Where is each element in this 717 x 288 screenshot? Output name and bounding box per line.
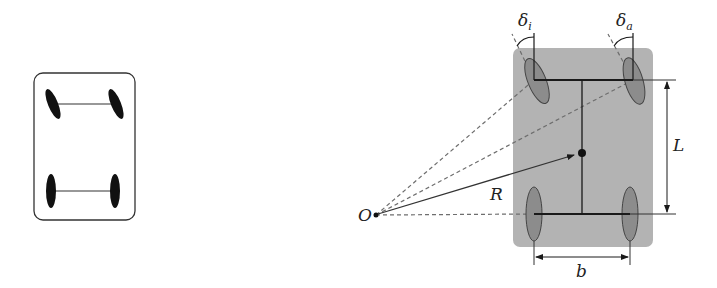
turn-center-label: O bbox=[358, 205, 372, 225]
track-width-label: b bbox=[576, 261, 587, 281]
radius-label: R bbox=[489, 184, 503, 204]
center-of-gravity bbox=[578, 149, 586, 157]
delta-inner-label: δi bbox=[518, 10, 532, 33]
rear-left-wheel bbox=[46, 174, 56, 208]
wheelbase-label: L bbox=[672, 135, 684, 155]
ackermann-diagram: δi δa L b R O bbox=[0, 0, 717, 288]
outer-angle-arc bbox=[614, 37, 633, 46]
inner-angle-arc bbox=[517, 37, 534, 46]
simple-vehicle bbox=[34, 73, 135, 220]
turn-center-point bbox=[374, 213, 379, 218]
delta-outer-label: δa bbox=[616, 10, 633, 33]
ackermann-vehicle: δi δa L b R O bbox=[358, 10, 684, 281]
rear-right-wheel bbox=[110, 174, 120, 208]
